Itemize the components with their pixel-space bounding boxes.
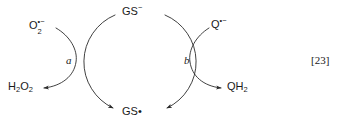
cycle-arc-left [84,15,115,108]
figure-canvas: GS− GS• O•−2 H2O2 Q•− QH2 a b [23] [0,0,360,126]
branch-arc-right [190,28,221,88]
species-hydrogen-peroxide-h: H [8,80,16,92]
reaction-scheme-drawing [0,0,360,126]
species-semiquinone: Q•− [211,19,227,30]
species-quinol-base: QH [227,80,244,92]
cycle-arc-right [165,15,196,108]
species-superoxide: O•−2 [29,20,38,31]
species-hydrogen-peroxide: H2O2 [8,81,33,92]
species-hydrogen-peroxide-o-count: 2 [29,85,33,94]
reference-citation: [23] [311,55,329,66]
species-hydrogen-peroxide-h-count: 2 [16,85,20,94]
species-superoxide-superscript: •− [38,18,45,26]
species-semiquinone-base: Q [211,18,220,30]
species-gs-anion-base: GS [122,5,138,17]
species-gs-anion-charge: − [138,3,142,12]
species-superoxide-base: O [29,19,38,31]
species-quinol: QH2 [227,81,248,92]
species-superoxide-subscript: 2 [38,28,42,36]
step-label-a: a [66,55,72,66]
species-gs-radical-base: GS [122,105,138,117]
species-hydrogen-peroxide-o: O [20,80,29,92]
species-semiquinone-superscript: •− [220,16,227,25]
species-quinol-subscript: 2 [244,85,248,94]
step-label-b: b [184,55,190,66]
species-gs-radical-dot: • [138,105,142,117]
species-gs-radical: GS• [122,106,142,117]
species-gs-anion: GS− [122,6,142,17]
